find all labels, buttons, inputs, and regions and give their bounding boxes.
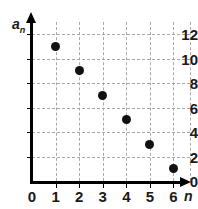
y-axis-arrow-icon xyxy=(26,12,36,23)
data-point xyxy=(145,140,154,149)
y-axis-tick xyxy=(27,83,31,84)
y-axis-tick-label: 4 xyxy=(172,125,198,140)
data-point xyxy=(75,66,84,75)
plot-area xyxy=(32,22,190,181)
gridline-horizontal xyxy=(32,59,190,60)
y-axis-title: an xyxy=(12,17,25,35)
y-axis-tick xyxy=(27,59,31,60)
x-axis-tick-label: 2 xyxy=(69,189,89,204)
y-axis-tick-label: 6 xyxy=(172,101,198,116)
y-axis-title-base: a xyxy=(12,16,20,32)
y-axis-tick xyxy=(27,34,31,35)
data-point xyxy=(98,91,107,100)
y-axis-tick-label: 10 xyxy=(172,52,198,67)
y-axis-tick xyxy=(27,108,31,109)
y-axis-tick-label: 12 xyxy=(172,27,198,42)
x-axis-tick-label: 4 xyxy=(116,189,136,204)
gridline-horizontal xyxy=(32,108,190,109)
x-axis-line xyxy=(30,181,182,184)
data-point xyxy=(51,42,60,51)
data-point xyxy=(169,164,178,173)
y-axis-line xyxy=(30,20,33,183)
gridline-horizontal xyxy=(32,34,190,35)
x-axis-tick-label: 5 xyxy=(140,189,160,204)
x-axis-title: n xyxy=(184,189,193,203)
y-axis-tick-label: 8 xyxy=(172,76,198,91)
gridline-horizontal xyxy=(32,83,190,84)
x-axis-tick-label: 1 xyxy=(46,189,66,204)
clipped-glyph-artifact: .. xyxy=(8,0,20,4)
y-axis-tick-label: 0 xyxy=(172,174,198,189)
gridline-horizontal xyxy=(32,132,190,133)
data-point xyxy=(122,115,131,124)
y-axis-tick xyxy=(27,157,31,158)
y-axis-title-subscript: n xyxy=(20,25,26,35)
x-axis-tick-label: 0 xyxy=(22,189,42,204)
x-axis-tick-label: 6 xyxy=(163,189,183,204)
y-axis-tick-label: 2 xyxy=(172,150,198,165)
x-axis-tick-label: 3 xyxy=(93,189,113,204)
gridline-horizontal xyxy=(32,157,190,158)
scatter-plot-figure: .. 0123456 024681012 an n xyxy=(0,0,198,209)
y-axis-tick xyxy=(27,132,31,133)
